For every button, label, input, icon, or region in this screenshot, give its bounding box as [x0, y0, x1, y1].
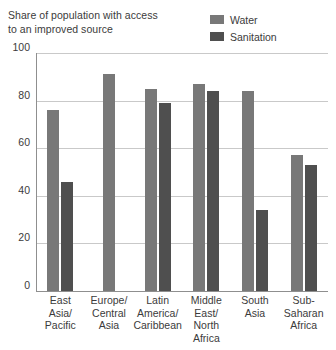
bar-water-2: [145, 89, 157, 291]
bar-sanitation-2: [159, 103, 171, 291]
x-axis-label-4: SouthAsia: [228, 294, 283, 319]
x-axis-label-line: Asia: [82, 319, 137, 332]
chart-title-line-1: Share of population with access: [8, 8, 208, 22]
x-axis-label-line: America/: [130, 307, 185, 320]
chart-container: Share of population with access to an im…: [0, 0, 336, 350]
x-axis-label-line: Saharan: [276, 307, 331, 320]
y-tick-label-100: 100: [0, 42, 30, 53]
x-axis-label-line: Middle: [179, 294, 234, 307]
x-axis-label-line: Central: [82, 307, 137, 320]
bar-sanitation-5: [305, 165, 317, 291]
x-axis-category-labels: EastAsia/PacificEurope/CentralAsiaLatinA…: [36, 294, 328, 350]
bar-water-3: [193, 84, 205, 291]
y-tick-label-80: 80: [0, 90, 30, 101]
x-axis-label-line: East/: [179, 307, 234, 320]
legend-swatch-water-icon: [210, 15, 224, 24]
x-axis-label-1: Europe/CentralAsia: [82, 294, 137, 332]
x-axis-label-2: LatinAmerica/Caribbean: [130, 294, 185, 332]
x-axis-label-line: Africa: [276, 319, 331, 332]
x-axis-label-line: Asia/: [33, 307, 88, 320]
bar-water-5: [291, 155, 303, 291]
legend-label-water: Water: [230, 14, 258, 26]
y-tick-label-20: 20: [0, 232, 30, 243]
legend-swatch-sanitation-icon: [210, 32, 224, 41]
bar-sanitation-0: [61, 182, 73, 291]
x-axis-label-5: Sub-SaharanAfrica: [276, 294, 331, 332]
x-axis-label-line: Caribbean: [130, 319, 185, 332]
x-axis-label-line: East: [33, 294, 88, 307]
bar-water-0: [47, 110, 59, 291]
chart-title-line-2: to an improved source: [8, 22, 208, 36]
x-axis-label-line: South: [228, 294, 283, 307]
x-axis-label-line: Europe/: [82, 294, 137, 307]
x-axis-label-line: Sub-: [276, 294, 331, 307]
x-axis-label-line: Pacific: [33, 319, 88, 332]
chart-title: Share of population with access to an im…: [8, 8, 208, 36]
bar-water-1: [103, 74, 115, 291]
bar-water-4: [242, 91, 254, 291]
x-axis-label-line: Latin: [130, 294, 185, 307]
bar-series-layer: [36, 53, 328, 291]
x-axis-label-3: MiddleEast/NorthAfrica: [179, 294, 234, 344]
x-axis-label-line: North: [179, 319, 234, 332]
gridline-0: [36, 291, 328, 292]
x-axis-label-0: EastAsia/Pacific: [33, 294, 88, 332]
legend-item-sanitation: Sanitation: [210, 28, 330, 45]
legend-label-sanitation: Sanitation: [230, 31, 277, 43]
y-tick-label-40: 40: [0, 185, 30, 196]
bar-sanitation-3: [207, 91, 219, 291]
legend-item-water: Water: [210, 11, 330, 28]
chart-legend: Water Sanitation: [210, 11, 330, 45]
bar-sanitation-4: [256, 210, 268, 291]
x-axis-label-line: Africa: [179, 332, 234, 345]
x-axis-label-line: Asia: [228, 307, 283, 320]
y-tick-label-60: 60: [0, 137, 30, 148]
y-tick-label-0: 0: [0, 280, 30, 291]
